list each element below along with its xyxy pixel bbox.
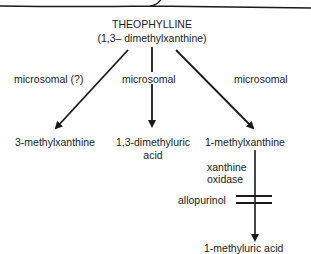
arrow-to-3-methylxanthine [56, 50, 128, 128]
product-1-methyluric-acid: 1-methyluric acid [204, 242, 283, 254]
product-1-methylxanthine: 1-methylxanthine [205, 136, 285, 148]
xanthine-oxidase-line1: xanthine [207, 161, 247, 173]
enzyme-label-center: microsomal [122, 73, 176, 85]
product-3-methylxanthine: 3-methylxanthine [15, 136, 95, 148]
title: THEOPHYLLINE [100, 18, 204, 30]
product-dimethyluric-line1: 1,3-dimethyluric [112, 136, 194, 148]
subtitle: (1,3– dimethylxanthine) [88, 32, 216, 44]
top-border [0, 0, 311, 8]
product-dimethyluric-line2: acid [112, 149, 194, 161]
xanthine-oxidase-line2: oxidase [207, 173, 243, 185]
arrow-to-1-methylxanthine [176, 50, 253, 128]
enzyme-label-left: microsomal (?) [14, 73, 83, 85]
enzyme-label-right: microsomal [234, 73, 288, 85]
inhibitor-allopurinol: allopurinol [178, 194, 226, 206]
